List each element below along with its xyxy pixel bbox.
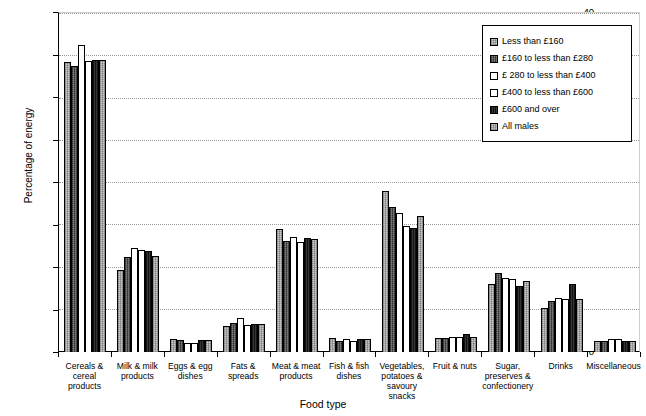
- legend-item[interactable]: £600 and over: [490, 101, 625, 118]
- bar: [555, 298, 562, 352]
- x-tick-mark: [481, 352, 482, 357]
- x-tick-mark: [534, 352, 535, 357]
- x-tick-mark: [111, 352, 112, 357]
- legend: Less than £160£160 to less than £280£ 28…: [482, 25, 632, 142]
- x-tick-mark: [428, 352, 429, 357]
- bar: [456, 337, 463, 352]
- bar: [569, 284, 576, 352]
- legend-item-label: £ 280 to less than £400: [502, 71, 596, 80]
- bar: [223, 326, 230, 352]
- bar: [290, 237, 297, 352]
- bar: [629, 341, 636, 352]
- bar: [177, 340, 184, 352]
- legend-swatch-icon: [490, 38, 498, 46]
- x-category-label-line: preserves &: [473, 371, 542, 381]
- x-axis-title: Food type: [0, 398, 646, 410]
- bar: [548, 301, 555, 352]
- x-category-label-line: confectionery: [473, 381, 542, 391]
- bar: [382, 191, 389, 352]
- legend-swatch-icon: [490, 106, 498, 114]
- legend-item-label: £400 to less than £600: [502, 88, 593, 97]
- bar: [145, 251, 152, 352]
- bar: [297, 242, 304, 352]
- bar: [343, 339, 350, 352]
- x-category-label-line: potatoes &: [367, 371, 436, 381]
- bar: [258, 324, 265, 352]
- bar: [576, 299, 583, 352]
- bar: [205, 340, 212, 352]
- bar: [403, 226, 410, 352]
- bar: [191, 343, 198, 352]
- bar: [495, 273, 502, 352]
- bar: [562, 299, 569, 352]
- bar: [417, 216, 424, 352]
- bar-group: [376, 13, 429, 352]
- x-category-label-line: products: [50, 381, 119, 391]
- bar: [311, 239, 318, 352]
- legend-item-label: Less than £160: [502, 37, 564, 46]
- legend-item[interactable]: All males: [490, 118, 625, 135]
- legend-item-label: £160 to less than £280: [502, 54, 593, 63]
- bar-group: [218, 13, 271, 352]
- bar: [85, 61, 92, 352]
- bar: [601, 341, 608, 352]
- bar: [138, 250, 145, 352]
- bar: [541, 308, 548, 352]
- legend-swatch-icon: [490, 123, 498, 131]
- bar: [304, 238, 311, 352]
- x-tick-mark: [323, 352, 324, 357]
- bar: [276, 229, 283, 352]
- bar: [396, 213, 403, 352]
- x-tick-mark: [217, 352, 218, 357]
- bar-group: [271, 13, 324, 352]
- bar: [152, 256, 159, 352]
- bar: [470, 337, 477, 352]
- bar: [184, 343, 191, 352]
- y-axis-title: Percentage of energy: [23, 76, 34, 236]
- bar: [170, 339, 177, 352]
- x-tick-mark: [640, 352, 641, 357]
- bar-group: [165, 13, 218, 352]
- bar: [350, 341, 357, 352]
- bar: [117, 270, 124, 352]
- bar: [336, 341, 343, 352]
- x-tick-mark: [270, 352, 271, 357]
- bar: [509, 279, 516, 353]
- bar-chart: Percentage of energy 0510152025303540 Ce…: [0, 0, 646, 416]
- bar: [488, 284, 495, 352]
- x-tick-mark: [375, 352, 376, 357]
- bar: [364, 339, 371, 352]
- x-category-label-line: Miscellaneous: [579, 361, 646, 371]
- x-category-label: Miscellaneous: [579, 361, 646, 371]
- bar: [283, 241, 290, 352]
- bar: [92, 60, 99, 352]
- bar: [198, 340, 205, 352]
- bar: [410, 228, 417, 352]
- legend-item[interactable]: £ 280 to less than £400: [490, 67, 625, 84]
- bar: [516, 286, 523, 352]
- legend-item[interactable]: £160 to less than £280: [490, 50, 625, 67]
- bar-group: [59, 13, 112, 352]
- bar: [131, 248, 138, 352]
- legend-item[interactable]: £400 to less than £600: [490, 84, 625, 101]
- legend-item-label: £600 and over: [502, 105, 560, 114]
- bar: [78, 45, 85, 352]
- bar: [230, 323, 237, 352]
- x-tick-mark: [587, 352, 588, 357]
- legend-item[interactable]: Less than £160: [490, 33, 625, 50]
- bar: [251, 324, 258, 352]
- bar: [523, 281, 530, 352]
- bar: [449, 337, 456, 352]
- bar: [622, 341, 629, 352]
- bar: [244, 325, 251, 352]
- bar: [124, 257, 131, 352]
- legend-swatch-icon: [490, 89, 498, 97]
- legend-swatch-icon: [490, 72, 498, 80]
- bar: [608, 339, 615, 352]
- bar: [435, 338, 442, 352]
- bar: [615, 339, 622, 352]
- x-tick-mark: [164, 352, 165, 357]
- bar: [329, 338, 336, 352]
- bar: [64, 62, 71, 352]
- bar: [357, 339, 364, 352]
